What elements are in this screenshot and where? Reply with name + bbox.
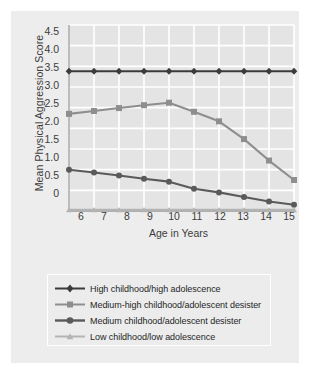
data-point xyxy=(141,176,147,182)
figure-root: Mean Physical Aggression Score Age in Ye… xyxy=(0,0,320,384)
data-point xyxy=(166,179,172,185)
data-point xyxy=(66,111,72,117)
data-point xyxy=(91,170,97,176)
data-point xyxy=(141,102,147,108)
legend-marker-triangle-icon xyxy=(54,330,86,343)
chart-legend: High childhood/high adolescence Medium-h… xyxy=(47,274,271,346)
legend-marker-square-icon xyxy=(54,298,86,311)
legend-marker-diamond-icon xyxy=(54,282,86,295)
data-point xyxy=(266,158,272,164)
data-point xyxy=(241,136,247,142)
data-point xyxy=(291,202,297,208)
data-point xyxy=(241,194,247,200)
legend-item[interactable]: Medium childhood/adolescent desister xyxy=(54,313,266,328)
legend-marker-circle-icon xyxy=(54,314,86,327)
data-point xyxy=(191,109,197,115)
data-point xyxy=(216,118,222,124)
data-point xyxy=(191,186,197,192)
data-point xyxy=(116,105,122,111)
plot-canvas xyxy=(11,11,299,251)
legend-label: Medium childhood/adolescent desister xyxy=(90,316,241,326)
data-point xyxy=(266,198,272,204)
legend-label: Low childhood/low adolescence xyxy=(90,332,215,342)
chart-panel: Mean Physical Aggression Score Age in Ye… xyxy=(11,11,299,363)
legend-item[interactable]: Medium-high childhood/adolescent desiste… xyxy=(54,297,266,312)
data-point xyxy=(166,100,172,106)
data-point xyxy=(91,108,97,114)
chart-area: Mean Physical Aggression Score Age in Ye… xyxy=(11,11,299,251)
legend-item[interactable]: Low childhood/low adolescence xyxy=(54,329,266,344)
plot-background xyxy=(69,25,294,211)
data-point xyxy=(291,177,297,183)
data-point xyxy=(66,167,72,173)
legend-item[interactable]: High childhood/high adolescence xyxy=(54,281,266,296)
legend-label: High childhood/high adolescence xyxy=(90,284,221,294)
data-point xyxy=(216,189,222,195)
data-point xyxy=(116,172,122,178)
legend-label: Medium-high childhood/adolescent desiste… xyxy=(90,300,261,310)
